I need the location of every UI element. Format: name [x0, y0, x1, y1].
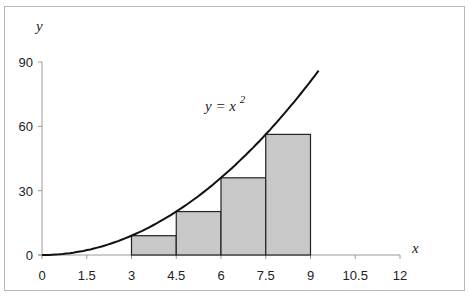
x-tick-label: 9 — [307, 268, 314, 283]
riemann-bar — [132, 236, 177, 255]
y-tick-label: 0 — [26, 248, 33, 263]
riemann-bar — [266, 134, 311, 255]
riemann-bar — [221, 178, 266, 255]
riemann-sum-chart: 030609001.534.567.5910.512xyy = x 2 — [0, 0, 470, 297]
x-tick-label: 6 — [217, 268, 224, 283]
x-tick-label: 7.5 — [257, 268, 275, 283]
y-axis-label: y — [34, 18, 43, 34]
y-tick-label: 90 — [19, 55, 33, 70]
y-tick-label: 60 — [19, 119, 33, 134]
x-tick-label: 12 — [393, 268, 407, 283]
x-axis-label: x — [411, 240, 419, 256]
x-tick-label: 4.5 — [167, 268, 185, 283]
x-tick-label: 0 — [38, 268, 45, 283]
y-tick-label: 30 — [19, 184, 33, 199]
x-tick-label: 3 — [128, 268, 135, 283]
riemann-bar — [176, 212, 221, 255]
x-tick-label: 1.5 — [78, 268, 96, 283]
x-tick-label: 10.5 — [343, 268, 368, 283]
curve-annotation: y = x 2 — [203, 93, 246, 114]
